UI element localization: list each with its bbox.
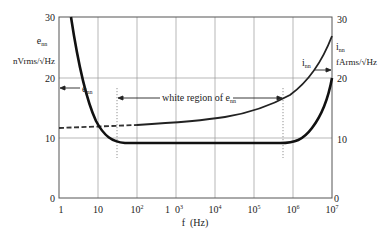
inn-curve: [137, 36, 332, 125]
svg-text:10: 10: [93, 204, 103, 215]
svg-text:106: 106: [287, 204, 300, 215]
x-axis-label: f (Hz): [182, 217, 209, 229]
plot-frame: [59, 17, 332, 198]
svg-text:0: 0: [334, 193, 339, 204]
white-region-label: white region of enn: [162, 92, 236, 104]
svg-text:20: 20: [337, 73, 347, 84]
enn-axis-arrow: [60, 86, 80, 90]
svg-text:10: 10: [45, 133, 55, 144]
svg-text:105: 105: [248, 204, 261, 215]
svg-text:104: 104: [209, 204, 222, 215]
right-axis-unit: fArms/√Hz: [336, 57, 377, 67]
noise-spectral-density-chart: enn inn white region of enn 30 20 10 0 3…: [0, 0, 387, 234]
svg-text:20: 20: [45, 73, 55, 84]
svg-text:1: 1: [59, 204, 64, 215]
grid: [59, 17, 332, 198]
svg-text:1 03: 1 03: [165, 204, 183, 215]
left-axis-label: enn: [37, 35, 47, 47]
svg-text:10: 10: [337, 134, 347, 145]
svg-text:107: 107: [326, 204, 339, 215]
x-axis-ticks: 1 10 102 1 03 104 105 106 107: [59, 204, 339, 215]
inn-axis-arrow: [315, 68, 331, 72]
svg-text:0: 0: [50, 193, 55, 204]
svg-text:30: 30: [337, 14, 347, 25]
svg-text:30: 30: [45, 12, 55, 23]
inn-arrow-label: inn: [302, 57, 311, 69]
right-axis-label: inn: [336, 41, 345, 53]
enn-arrow-label: enn: [82, 83, 92, 95]
svg-text:102: 102: [131, 204, 144, 215]
left-axis-unit: nVrms/√Hz: [13, 56, 55, 66]
